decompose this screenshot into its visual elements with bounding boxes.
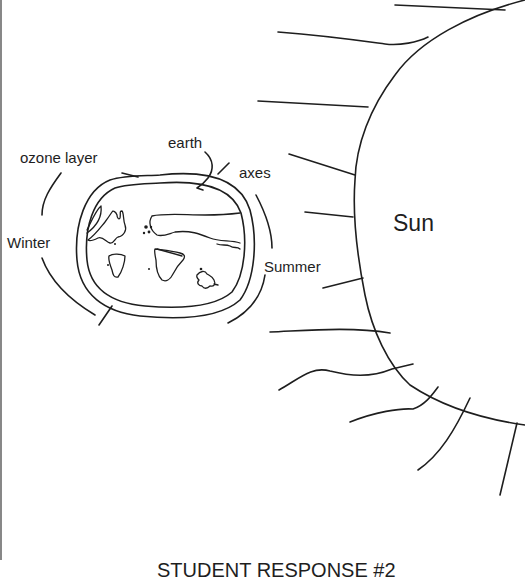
sun-ray	[500, 423, 517, 495]
sun-rays	[258, 5, 517, 495]
winter-arc-upper	[42, 173, 61, 215]
ozone-layer-label: ozone layer	[20, 149, 98, 166]
continents	[87, 206, 240, 288]
sun-ray	[323, 278, 363, 288]
summer-arc-upper	[256, 195, 272, 248]
island-dot	[200, 268, 203, 271]
island-dot	[114, 243, 116, 245]
axis-bottom-tick	[99, 306, 112, 325]
continent-southwest	[109, 254, 125, 277]
island-dot	[144, 225, 148, 229]
island-dot	[143, 232, 145, 234]
island-dot	[107, 264, 109, 266]
axes-tick-mark	[218, 163, 229, 174]
continent-southeast	[197, 271, 218, 288]
continent-south-large	[155, 249, 185, 281]
caption: STUDENT RESPONSE #2	[157, 559, 396, 581]
sun-ray	[350, 387, 438, 422]
island-dot	[148, 268, 150, 270]
summer-label: Summer	[264, 258, 321, 275]
sun-earth-diagram: Sun	[0, 0, 525, 584]
sun-ray	[279, 364, 413, 390]
sun-ray	[278, 32, 428, 45]
sun-label: Sun	[393, 210, 434, 236]
sun: Sun	[258, 0, 525, 495]
winter-arc-lower	[42, 258, 95, 315]
sun-ray	[395, 5, 505, 10]
sun-ray	[270, 329, 390, 333]
continent-north-coast	[217, 244, 240, 249]
sun-ray	[305, 212, 353, 217]
sun-ray	[289, 154, 355, 175]
sun-outline	[354, 0, 525, 425]
earth	[77, 173, 255, 318]
winter-label: Winter	[7, 234, 50, 251]
island-dot	[150, 226, 152, 228]
earth-label: earth	[168, 134, 202, 151]
summer-arc-lower	[228, 275, 265, 323]
island-dot	[148, 231, 151, 234]
sun-ray	[258, 101, 368, 107]
sun-ray	[418, 398, 470, 470]
axes-label: axes	[239, 164, 271, 181]
continent-north-large	[150, 213, 240, 243]
